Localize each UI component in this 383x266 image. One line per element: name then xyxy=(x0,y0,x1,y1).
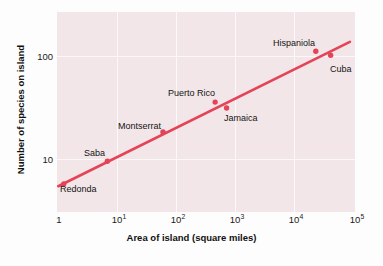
point-label-redonda: Redonda xyxy=(60,184,97,194)
trend-line xyxy=(58,42,350,186)
xtick-10e3: 103 xyxy=(230,214,244,225)
data-point-jamaica[interactable] xyxy=(224,105,229,110)
xtick-10e1: 101 xyxy=(112,214,126,225)
x-axis-title: Area of island (square miles) xyxy=(0,232,383,243)
point-label-saba: Saba xyxy=(84,148,105,158)
point-label-montserrat: Montserrat xyxy=(118,121,161,131)
y-axis-title: Number of species on island xyxy=(15,20,26,200)
point-label-hispaniola: Hispaniola xyxy=(273,38,315,48)
xtick-10e2: 102 xyxy=(171,214,185,225)
data-point-cuba[interactable] xyxy=(328,52,333,57)
point-label-puerto-rico: Puerto Rico xyxy=(168,88,215,98)
xtick-10e4: 104 xyxy=(289,214,303,225)
point-label-cuba: Cuba xyxy=(330,64,352,74)
xtick-10e5: 105 xyxy=(350,214,364,225)
ytick-100: 100 xyxy=(37,51,53,62)
xtick-1: 1 xyxy=(56,214,61,225)
data-point-montserrat[interactable] xyxy=(160,129,165,134)
chart-figure: Redonda Saba Montserrat Puerto Rico Jama… xyxy=(0,0,383,266)
ytick-10: 10 xyxy=(42,154,53,165)
point-label-jamaica: Jamaica xyxy=(224,113,258,123)
data-point-hispaniola[interactable] xyxy=(313,49,318,54)
data-point-saba[interactable] xyxy=(105,158,110,163)
data-point-puerto-rico[interactable] xyxy=(212,99,217,104)
